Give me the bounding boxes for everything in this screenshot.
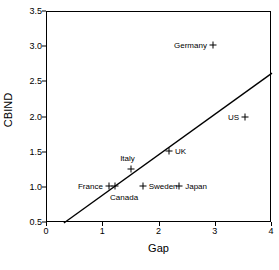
data-point-label: Italy — [120, 153, 135, 162]
x-tick-label: 1 — [100, 226, 105, 236]
y-tick-label: 1.5 — [29, 147, 42, 157]
data-point-marker — [209, 42, 216, 49]
y-tick-label: 1.0 — [29, 182, 42, 192]
plot-frame: GermanyUSUKItalyFranceCanadaSwedenJapan — [46, 11, 271, 222]
y-tick-label: 3.0 — [29, 41, 42, 51]
data-point-label: France — [78, 182, 103, 191]
x-tick-label: 2 — [156, 226, 161, 236]
data-point-marker — [127, 165, 134, 172]
x-tick-label: 0 — [43, 226, 48, 236]
x-tick-label: 4 — [268, 226, 273, 236]
data-point-marker — [112, 183, 119, 190]
data-point-marker — [242, 113, 249, 120]
data-point-marker — [176, 183, 183, 190]
data-point-label: Canada — [110, 193, 138, 202]
plot-area: GermanyUSUKItalyFranceCanadaSwedenJapan — [47, 12, 270, 221]
y-axis-title: CBIND — [2, 80, 14, 140]
x-tick-label: 3 — [212, 226, 217, 236]
data-point-label: Japan — [185, 182, 207, 191]
data-point-label: US — [228, 112, 239, 121]
data-point-label: Sweden — [149, 182, 178, 191]
y-tick-label: 2.5 — [29, 76, 42, 86]
data-point-label: UK — [175, 147, 186, 156]
y-tick-label: 2.0 — [29, 112, 42, 122]
data-point-marker — [166, 148, 173, 155]
scatter-chart: 0.51.01.52.02.53.03.5 01234 GermanyUSUKI… — [0, 0, 279, 270]
x-axis-tick-labels: 01234 — [46, 226, 271, 240]
data-point-label: Germany — [174, 41, 207, 50]
x-axis-title: Gap — [46, 242, 271, 254]
y-tick-label: 0.5 — [29, 217, 42, 227]
data-point-marker — [139, 183, 146, 190]
y-axis-tick-labels: 0.51.01.52.02.53.03.5 — [14, 11, 42, 222]
y-tick-label: 3.5 — [29, 6, 42, 16]
